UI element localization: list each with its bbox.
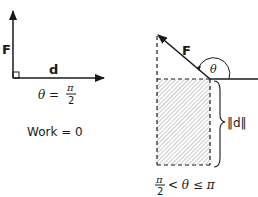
left-force-label: F	[2, 42, 11, 57]
right-angle-icon	[13, 72, 19, 78]
hatched-projection-area	[157, 79, 210, 165]
angle-equation-denominator: 2	[68, 95, 74, 106]
brace-icon	[214, 81, 225, 167]
left-panel: F d θ = π 2 Work = 0	[2, 11, 104, 139]
range-denominator: 2	[157, 186, 163, 197]
range-rest: < θ ≤ π	[168, 178, 216, 192]
angle-equation-lhs: θ =	[38, 88, 59, 102]
left-displacement-label: d	[49, 62, 58, 77]
work-diagram: F d θ = π 2 Work = 0 F θ ‖d‖ π 2 < θ ≤ π	[0, 0, 258, 197]
right-force-label: F	[182, 43, 191, 58]
magnitude-label: ‖d‖	[227, 116, 247, 130]
range-numerator: π	[155, 174, 163, 185]
right-panel: F θ ‖d‖ π 2 < θ ≤ π	[155, 35, 258, 197]
angle-label: θ	[210, 63, 217, 76]
angle-equation-numerator: π	[66, 82, 74, 93]
work-label: Work = 0	[27, 125, 83, 139]
